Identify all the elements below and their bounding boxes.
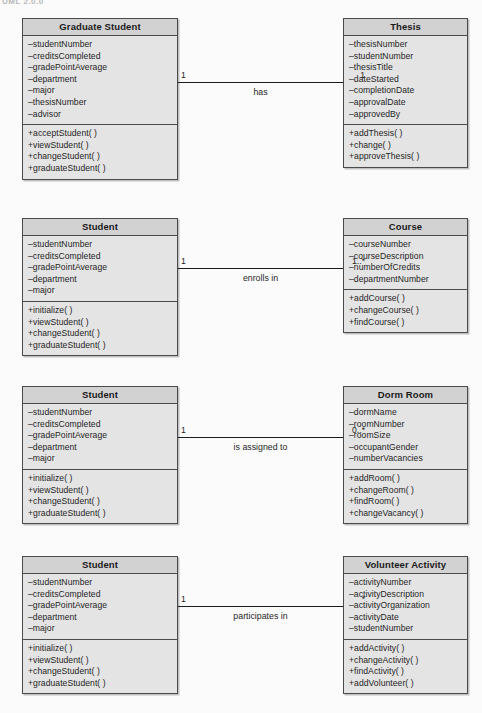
operation: +viewStudent( ) — [23, 140, 177, 152]
class-name: Student — [23, 557, 177, 574]
operation: +acceptStudent( ) — [23, 128, 177, 140]
association-line[interactable] — [178, 606, 343, 607]
class-name: Volunteer Activity — [344, 557, 467, 574]
attribute: –creditsCompleted — [23, 251, 177, 263]
attribute: –major — [23, 285, 177, 297]
operation: +findRoom( ) — [344, 496, 467, 508]
attributes-compartment: –studentNumber–creditsCompleted–gradePoi… — [23, 236, 177, 302]
association-line[interactable] — [178, 82, 343, 83]
class-name: Course — [344, 219, 467, 236]
operation: +initialize( ) — [23, 643, 177, 655]
target-multiplicity: 0..* — [352, 425, 365, 435]
operation: +viewStudent( ) — [23, 317, 177, 329]
attribute: –major — [23, 85, 177, 97]
association-line[interactable] — [178, 268, 343, 269]
attribute: –studentNumber — [23, 577, 177, 589]
operation: +changeStudent( ) — [23, 496, 177, 508]
class-box-graduate-student[interactable]: Graduate Student–studentNumber–creditsCo… — [22, 18, 178, 180]
operation: +addVolunteer( ) — [344, 678, 467, 690]
target-multiplicity: 1 — [360, 70, 365, 80]
target-multiplicity: * — [362, 594, 365, 604]
source-multiplicity: 1 — [181, 70, 186, 80]
attribute: –advisor — [23, 109, 177, 121]
association-label: participates in — [178, 611, 343, 622]
attribute: –gradePointAverage — [23, 262, 177, 274]
attribute: –occupantGender — [344, 442, 467, 454]
attributes-compartment: –thesisNumber–studentNumber–thesisTitle–… — [344, 36, 467, 125]
attribute: –gradePointAverage — [23, 600, 177, 612]
association-line[interactable] — [178, 437, 343, 438]
attribute: –thesisNumber — [344, 39, 467, 51]
operation: +changeCourse( ) — [344, 305, 467, 317]
operation: +changeStudent( ) — [23, 151, 177, 163]
attribute: –major — [23, 623, 177, 635]
operation: +changeStudent( ) — [23, 666, 177, 678]
class-box-student[interactable]: Student–studentNumber–creditsCompleted–g… — [22, 556, 178, 694]
uml-class-diagram: Graduate Student–studentNumber–creditsCo… — [0, 0, 482, 713]
attribute: –creditsCompleted — [23, 589, 177, 601]
operation: +graduateStudent( ) — [23, 340, 177, 352]
source-multiplicity: 1 — [181, 425, 186, 435]
attribute: –studentNumber — [344, 623, 467, 635]
operation: +change( ) — [344, 140, 467, 152]
class-box-volunteer-activity[interactable]: Volunteer Activity–activityNumber–activi… — [343, 556, 468, 694]
association-label: is assigned to — [178, 442, 343, 453]
attribute: –gradePointAverage — [23, 62, 177, 74]
class-box-thesis[interactable]: Thesis–thesisNumber–studentNumber–thesis… — [343, 18, 468, 168]
attributes-compartment: –studentNumber–creditsCompleted–gradePoi… — [23, 574, 177, 640]
operation: +graduateStudent( ) — [23, 678, 177, 690]
operations-compartment: +initialize( )+viewStudent( )+changeStud… — [23, 470, 177, 523]
operations-compartment: +addActivity( )+changeActivity( )+findAc… — [344, 640, 467, 693]
attribute: –studentNumber — [23, 407, 177, 419]
association-label: has — [178, 87, 343, 98]
operation: +addCourse( ) — [344, 293, 467, 305]
operation: +addThesis( ) — [344, 128, 467, 140]
attribute: –department — [23, 74, 177, 86]
class-box-student[interactable]: Student–studentNumber–creditsCompleted–g… — [22, 386, 178, 524]
attribute: –thesisNumber — [23, 97, 177, 109]
attribute: –courseNumber — [344, 239, 467, 251]
class-name: Thesis — [344, 19, 467, 36]
operation: +viewStudent( ) — [23, 655, 177, 667]
attribute: –department — [23, 612, 177, 624]
attribute: –creditsCompleted — [23, 51, 177, 63]
attribute: –department — [23, 442, 177, 454]
operations-compartment: +initialize( )+viewStudent( )+changeStud… — [23, 302, 177, 355]
operation: +initialize( ) — [23, 305, 177, 317]
class-name: Dorm Room — [344, 387, 467, 404]
attribute: –activityNumber — [344, 577, 467, 589]
source-multiplicity: 1 — [181, 256, 186, 266]
attribute: –creditsCompleted — [23, 419, 177, 431]
operation: +graduateStudent( ) — [23, 508, 177, 520]
operation: +changeActivity( ) — [344, 655, 467, 667]
attributes-compartment: –studentNumber–creditsCompleted–gradePoi… — [23, 36, 177, 125]
attribute: –gradePointAverage — [23, 430, 177, 442]
operation: +findCourse( ) — [344, 317, 467, 329]
attribute: –activityDate — [344, 612, 467, 624]
attribute: –studentNumber — [344, 51, 467, 63]
attribute: –major — [23, 453, 177, 465]
class-box-course[interactable]: Course–courseNumber–courseDescription–nu… — [343, 218, 468, 333]
operation: +initialize( ) — [23, 473, 177, 485]
class-name: Student — [23, 219, 177, 236]
operations-compartment: +initialize( )+viewStudent( )+changeStud… — [23, 640, 177, 693]
class-box-student[interactable]: Student–studentNumber–creditsCompleted–g… — [22, 218, 178, 356]
attribute: –studentNumber — [23, 39, 177, 51]
operations-compartment: +addThesis( )+change( )+approveThesis( ) — [344, 125, 467, 167]
operation: +graduateStudent( ) — [23, 163, 177, 175]
source-multiplicity: 1 — [181, 594, 186, 604]
attribute: –departmentNumber — [344, 274, 467, 286]
operation: +addRoom( ) — [344, 473, 467, 485]
operations-compartment: +acceptStudent( )+viewStudent( )+changeS… — [23, 125, 177, 178]
operation: +changeVacancy( ) — [344, 508, 467, 520]
class-box-dorm-room[interactable]: Dorm Room–dormName–roomNumber–roomSize–o… — [343, 386, 468, 524]
operation: +addActivity( ) — [344, 643, 467, 655]
class-name: Graduate Student — [23, 19, 177, 36]
class-name: Student — [23, 387, 177, 404]
association-label: enrolls in — [178, 273, 343, 284]
attribute: –department — [23, 274, 177, 286]
operation: +approveThesis( ) — [344, 151, 467, 163]
attributes-compartment: –dormName–roomNumber–roomSize–occupantGe… — [344, 404, 467, 470]
operations-compartment: +addRoom( )+changeRoom( )+findRoom( )+ch… — [344, 470, 467, 523]
attribute: –approvalDate — [344, 97, 467, 109]
